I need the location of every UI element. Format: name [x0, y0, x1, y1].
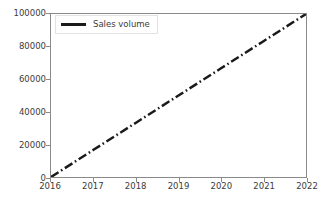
y-axis-tick-label: 80000 — [19, 41, 46, 51]
y-axis-tick-label: 20000 — [19, 140, 46, 150]
x-axis-tick-label: 2022 — [296, 181, 318, 191]
x-axis-tick-label: 2021 — [253, 181, 275, 191]
data-line-series — [51, 14, 306, 177]
y-axis-tick-labels: 020000400006000080000100000 — [0, 0, 46, 206]
chart-figure: 020000400006000080000100000 201620172018… — [0, 0, 323, 206]
legend-swatch-sales-volume — [61, 23, 86, 26]
x-axis-tick-labels: 2016201720182019202020212022 — [0, 181, 323, 201]
y-axis-tick-label: 40000 — [19, 107, 46, 117]
x-axis-tick-label: 2020 — [211, 181, 233, 191]
x-axis-tick-label: 2019 — [168, 181, 190, 191]
y-axis-tick-label: 60000 — [19, 74, 46, 84]
legend-label-sales-volume: Sales volume — [93, 20, 150, 29]
y-axis-tick-label: 100000 — [14, 8, 46, 18]
x-axis-tick-label: 2016 — [39, 181, 61, 191]
x-axis-tick-label: 2017 — [82, 181, 104, 191]
x-axis-tick-label: 2018 — [125, 181, 147, 191]
chart-legend: Sales volume — [55, 15, 158, 34]
plot-area — [50, 13, 307, 178]
